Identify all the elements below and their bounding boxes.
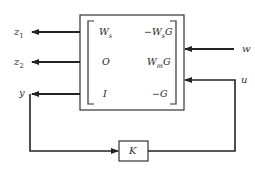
matrix-cell-1-2: −WsG (144, 27, 173, 41)
matrix-cell-2-2: WmG (147, 57, 171, 71)
block-diagram (0, 0, 255, 175)
output-label-z2: z2 (14, 57, 24, 71)
input-label-w: w (242, 44, 251, 54)
matrix-cell-3-1: I (103, 89, 107, 99)
controller-label: K (129, 146, 136, 156)
left-bracket (88, 21, 94, 104)
matrix-cell-2-1: O (102, 57, 110, 67)
matrix-cell-3-2: −G (152, 89, 168, 99)
input-label-u: u (241, 75, 247, 85)
output-label-y: y (19, 88, 25, 98)
output-label-z1: z1 (14, 27, 24, 41)
matrix-cell-1-1: Ws (99, 27, 112, 41)
feedback-y-to-k (30, 94, 118, 151)
